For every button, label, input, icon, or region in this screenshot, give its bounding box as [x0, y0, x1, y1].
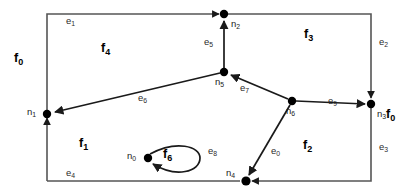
node-n2[interactable]: [220, 10, 228, 18]
face-label-f2: f2: [303, 139, 312, 152]
node-label-n0: n0: [127, 151, 136, 161]
edge-path-e1: [47, 14, 219, 110]
node-label-n4: n4: [226, 168, 235, 178]
edge-path-e8: [150, 146, 200, 172]
face-label-f3: f3: [304, 28, 313, 41]
node-n3[interactable]: [367, 100, 375, 108]
edge-label-e8: e8: [208, 146, 217, 156]
edge-path-e2: [228, 14, 371, 98]
edge-path-e0: [249, 105, 290, 175]
graph-diagram: n0 n1 n2 n3 n4 n5 n6 e0 e1 e2 e3 e4 e5 e…: [0, 0, 416, 195]
edge-label-e6: e6: [138, 93, 147, 103]
edge-label-e4: e4: [66, 168, 75, 178]
node-n4[interactable]: [241, 176, 250, 185]
edge-label-e1: e1: [66, 16, 75, 26]
node-label-n6: n6: [286, 106, 295, 116]
graph-canvas: [0, 0, 416, 195]
edge-label-e7: e7: [240, 83, 249, 93]
edge-label-e9: e9: [328, 96, 337, 106]
node-n5[interactable]: [220, 68, 228, 76]
face-label-f4: f4: [101, 42, 110, 55]
edge-label-e2: e2: [379, 37, 388, 47]
face-label-f0-right: f0: [386, 108, 395, 121]
node-label-n1: n1: [27, 107, 36, 117]
face-label-f6: f6: [163, 148, 172, 161]
node-n0[interactable]: [144, 154, 152, 162]
node-label-n5: n5: [215, 77, 224, 87]
node-label-n2: n2: [231, 19, 240, 29]
face-label-f0-left: f0: [14, 52, 23, 65]
edge-label-e0: e0: [271, 146, 280, 156]
node-n6[interactable]: [288, 97, 296, 105]
edge-label-e5: e5: [204, 37, 213, 47]
face-label-f1: f1: [79, 137, 88, 150]
node-label-n3: n3: [377, 109, 386, 119]
node-n1[interactable]: [43, 110, 51, 118]
edge-label-e3: e3: [379, 142, 388, 152]
